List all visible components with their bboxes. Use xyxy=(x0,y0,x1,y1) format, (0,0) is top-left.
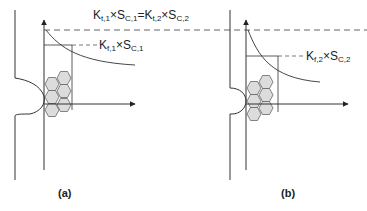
specimen-outline-a xyxy=(15,10,44,180)
caption-b: (b) xyxy=(281,187,295,199)
grain-cluster-b xyxy=(247,76,273,121)
panel-b xyxy=(230,10,348,180)
caption-a: (a) xyxy=(58,187,71,199)
specimen-outline-b xyxy=(230,10,246,180)
kt-equality-label: Kt,1×SC,1=Kt,2×SC,2 xyxy=(93,9,189,23)
kf2-label: Kf,2×SC,2 xyxy=(306,50,350,64)
kf1-label: Kf,1×SC,1 xyxy=(99,39,143,53)
notch-stress-diagram xyxy=(0,0,367,211)
panel-a xyxy=(15,10,135,180)
grain-cluster-a xyxy=(45,72,71,117)
